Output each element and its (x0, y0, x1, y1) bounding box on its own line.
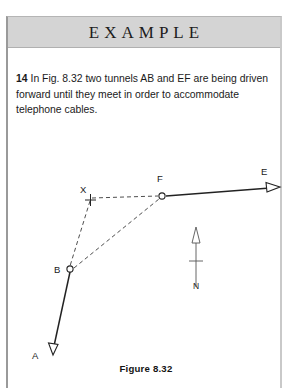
north-arrow-label: N (193, 281, 199, 291)
question-paragraph: 14In Fig. 8.32 two tunnels AB and EF are… (16, 71, 268, 117)
tunnel-EF (166, 188, 270, 196)
figure-area: A B X F E N Figure 8.32 (8, 115, 284, 388)
example-banner-title: EXAMPLE (84, 24, 204, 41)
arrowhead-E-icon (266, 183, 280, 193)
tunnel-AB (54, 272, 70, 346)
point-label-X: X (80, 184, 87, 195)
figure-diagram: A B X F E N (8, 115, 284, 365)
example-banner: EXAMPLE (8, 17, 280, 48)
north-arrow: N (189, 227, 203, 291)
sightline-XF (92, 196, 158, 198)
figure-caption: Figure 8.32 (8, 363, 284, 374)
point-label-E: E (261, 166, 267, 177)
question-text: In Fig. 8.32 two tunnels AB and EF are b… (16, 73, 268, 115)
point-label-B: B (54, 264, 60, 275)
sightline-XB (70, 201, 90, 266)
point-label-A: A (32, 350, 39, 361)
station-marker-B (67, 266, 73, 272)
north-arrow-head-icon (192, 227, 200, 243)
page: EXAMPLE 14In Fig. 8.32 two tunnels AB an… (0, 0, 288, 388)
sightline-group (70, 196, 159, 268)
point-label-F: F (157, 173, 163, 184)
tunnel-group (54, 188, 270, 346)
station-marker-X (85, 194, 96, 206)
example-content-box: EXAMPLE 14In Fig. 8.32 two tunnels AB an… (6, 16, 282, 388)
question-number: 14 (16, 73, 28, 84)
sightline-BF (74, 199, 159, 268)
arrowhead-A-icon (49, 343, 59, 355)
station-marker-F (159, 193, 165, 199)
